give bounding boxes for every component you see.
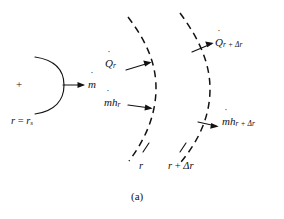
heat-flux-out-subscript: r + Δr: [223, 40, 243, 49]
outer-arc-radius-label: r + Δr: [168, 161, 194, 172]
inner-surface-arc: [35, 57, 64, 114]
inner-surface-radius-label: r = rs: [11, 116, 33, 127]
mass-flow-label: ˙m: [88, 79, 96, 90]
enthalpy-flux-out-label: ˙mhr + Δr: [222, 116, 255, 128]
outer-dashed-arc: [180, 13, 210, 162]
heat-flux-out-arrow: [192, 42, 214, 52]
figure-panel-a: + r = rs ˙m ˙Qr ˙Qr + Δr ˙mhr ˙mhr + Δr …: [0, 0, 284, 219]
center-plus-marker: +: [16, 79, 22, 90]
heat-flux-in-label: ˙Qr: [105, 58, 116, 70]
heat-flux-in-subscript: r: [113, 61, 116, 70]
diagram-canvas: [0, 0, 284, 219]
enthalpy-flux-in-subscript: r: [117, 100, 120, 109]
enthalpy-flux-in-label: ˙mhr: [104, 97, 120, 109]
enthalpy-flux-in-arrow: [128, 105, 153, 111]
delta-r-term: Δr: [183, 160, 193, 171]
plus-operator: +: [172, 160, 183, 171]
heat-flux-out-label: ˙Qr + Δr: [215, 37, 243, 49]
equals-sign: =: [15, 115, 26, 126]
inner-dashed-arc: [128, 17, 156, 161]
outer-arc-leader: [180, 143, 186, 152]
figure-caption: (a): [131, 191, 143, 202]
radius-subscript: s: [30, 119, 33, 127]
heat-flux-in-arrow: [126, 61, 152, 70]
inner-arc-leader: [143, 143, 149, 152]
mass-flow-arrow: [63, 82, 85, 88]
enthalpy-flux-out-subscript: r + Δr: [235, 119, 255, 128]
inner-arc-radius-label: r: [139, 161, 143, 172]
enthalpy-flux-out-arrow: [198, 122, 219, 129]
